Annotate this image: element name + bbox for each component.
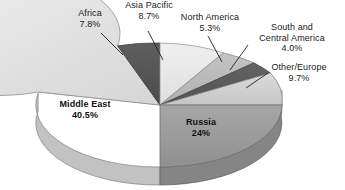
pie-chart-figure: Africa 7.8% Asia Pacific 8.7% North Amer… bbox=[0, 0, 345, 190]
label-south-central-america-name-line2: Central America bbox=[243, 33, 341, 44]
label-north-america-name: North America bbox=[168, 12, 252, 23]
label-middle-east-name: Middle East bbox=[38, 99, 132, 110]
label-middle-east-value: 40.5% bbox=[38, 110, 132, 121]
label-other-europe: Other/Europe 9.7% bbox=[256, 62, 342, 83]
label-middle-east: Middle East 40.5% bbox=[38, 99, 132, 120]
label-north-america: North America 5.3% bbox=[168, 12, 252, 33]
label-north-america-value: 5.3% bbox=[168, 23, 252, 34]
label-south-central-america-value: 4.0% bbox=[243, 43, 341, 54]
label-south-central-america: South and Central America 4.0% bbox=[243, 22, 341, 54]
label-asia-pacific-name: Asia Pacific bbox=[110, 0, 188, 11]
label-other-europe-value: 9.7% bbox=[256, 73, 342, 84]
label-russia: Russia 24% bbox=[170, 117, 232, 138]
label-russia-value: 24% bbox=[170, 128, 232, 139]
label-russia-name: Russia bbox=[170, 117, 232, 128]
label-other-europe-name: Other/Europe bbox=[256, 62, 342, 73]
label-south-central-america-name-line1: South and bbox=[243, 22, 341, 33]
